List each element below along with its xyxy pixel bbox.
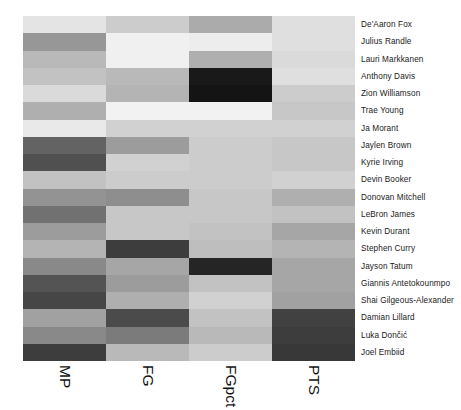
heatmap-cell (106, 137, 189, 154)
row-label: De'Aaron Fox (361, 16, 461, 33)
heatmap-cell (106, 275, 189, 292)
row-label: Jayson Tatum (361, 258, 461, 275)
row-label: Shai Gilgeous-Alexander (361, 292, 461, 309)
heatmap-cell (272, 154, 355, 171)
heatmap-cell (106, 309, 189, 326)
column-label-slot: FGpct (189, 361, 272, 410)
row-label: Zion Williamson (361, 85, 461, 102)
heatmap-cell (106, 240, 189, 257)
column-label: MP (56, 365, 74, 388)
column-label: FGpct (222, 365, 240, 407)
row-label: LeBron James (361, 206, 461, 223)
row-label: Damian Lillard (361, 309, 461, 326)
heatmap-cell (189, 137, 272, 154)
heatmap-cell (106, 85, 189, 102)
heatmap-cell (272, 240, 355, 257)
heatmap-cell (23, 85, 106, 102)
heatmap-cell (106, 120, 189, 137)
heatmap-cell (189, 33, 272, 50)
heatmap-cell (23, 68, 106, 85)
heatmap-cell (23, 189, 106, 206)
heatmap-cell (272, 68, 355, 85)
heatmap-cell (189, 154, 272, 171)
heatmap-cell (23, 171, 106, 188)
column-label: PTS (305, 365, 323, 395)
heatmap-cell (189, 120, 272, 137)
heatmap-cell (272, 51, 355, 68)
heatmap-cell (189, 16, 272, 33)
row-label: Anthony Davis (361, 68, 461, 85)
heatmap-cell (23, 206, 106, 223)
heatmap-cell (106, 206, 189, 223)
row-label: Devin Booker (361, 171, 461, 188)
heatmap-cell (189, 223, 272, 240)
heatmap-cell (189, 51, 272, 68)
heatmap-cell (106, 171, 189, 188)
heatmap-cell (272, 16, 355, 33)
row-label: Kyrie Irving (361, 154, 461, 171)
heatmap-cell (106, 51, 189, 68)
heatmap-cell (189, 85, 272, 102)
row-label: Donovan Mitchell (361, 189, 461, 206)
heatmap-cell (23, 137, 106, 154)
heatmap-cell (272, 327, 355, 344)
column-label: FG (139, 365, 157, 387)
row-label: Trae Young (361, 102, 461, 119)
column-label-slot: PTS (272, 361, 355, 410)
heatmap-cell (189, 102, 272, 119)
heatmap-cell (23, 292, 106, 309)
heatmap-cell (23, 275, 106, 292)
heatmap-cell (106, 154, 189, 171)
heatmap-cell (23, 33, 106, 50)
heatmap-cell (272, 85, 355, 102)
row-label: Luka Dončić (361, 327, 461, 344)
heatmap-cell (272, 206, 355, 223)
heatmap-cell (106, 33, 189, 50)
row-label: Giannis Antetokounmpo (361, 275, 461, 292)
heatmap-cell (23, 51, 106, 68)
row-label: Jaylen Brown (361, 137, 461, 154)
heatmap-cell (106, 258, 189, 275)
heatmap-cell (272, 120, 355, 137)
heatmap-cell (106, 68, 189, 85)
heatmap-cell (189, 275, 272, 292)
heatmap-cell (272, 292, 355, 309)
heatmap-cell (272, 189, 355, 206)
heatmap-cell (106, 102, 189, 119)
heatmap-cell (189, 258, 272, 275)
heatmap-cell (189, 309, 272, 326)
column-label-slot: FG (106, 361, 189, 410)
heatmap-cell (106, 223, 189, 240)
heatmap-figure: De'Aaron FoxJulius RandleLauri Markkanen… (0, 0, 461, 410)
heatmap-cell (23, 344, 106, 361)
heatmap-cell (23, 154, 106, 171)
heatmap-cell (189, 189, 272, 206)
heatmap-row-labels: De'Aaron FoxJulius RandleLauri Markkanen… (361, 16, 461, 361)
heatmap-cell (272, 137, 355, 154)
heatmap-cell (272, 344, 355, 361)
heatmap-cell (23, 102, 106, 119)
heatmap-cell (272, 33, 355, 50)
heatmap-cell (106, 327, 189, 344)
heatmap-cell (106, 292, 189, 309)
heatmap-cell (23, 240, 106, 257)
heatmap-column-labels: MPFGFGpctPTS (23, 361, 355, 410)
column-label-slot: MP (23, 361, 106, 410)
row-label: Kevin Durant (361, 223, 461, 240)
heatmap-cell (106, 344, 189, 361)
row-label: Joel Embiid (361, 344, 461, 361)
heatmap-cell (189, 240, 272, 257)
row-label: Lauri Markkanen (361, 51, 461, 68)
heatmap-cell (23, 309, 106, 326)
heatmap-cell (272, 102, 355, 119)
heatmap-cell (189, 171, 272, 188)
heatmap-cell (272, 258, 355, 275)
row-label: Stephen Curry (361, 240, 461, 257)
row-label: Ja Morant (361, 120, 461, 137)
heatmap-cell (106, 189, 189, 206)
heatmap-cell (272, 171, 355, 188)
heatmap-grid (23, 16, 355, 361)
heatmap-cell (189, 292, 272, 309)
heatmap-cell (106, 16, 189, 33)
heatmap-cell (272, 223, 355, 240)
